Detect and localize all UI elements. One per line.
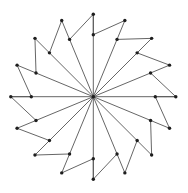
- zag-edge: [137, 141, 152, 156]
- spoke-edge: [93, 53, 137, 97]
- outer-node: [33, 37, 36, 40]
- inner-node: [34, 71, 37, 74]
- zig-edge: [151, 120, 152, 155]
- outer-node: [60, 171, 63, 174]
- inner-node: [149, 71, 152, 74]
- outer-node: [92, 178, 95, 181]
- inner-node: [48, 139, 51, 142]
- spoke-edge: [49, 53, 93, 97]
- outer-node: [92, 13, 95, 16]
- zig-edge: [35, 38, 36, 73]
- zig-edge: [70, 14, 94, 39]
- spoke-edge: [93, 97, 137, 141]
- zag-edge: [151, 65, 170, 73]
- outer-node: [123, 19, 126, 22]
- outer-node: [150, 153, 153, 156]
- zig-edge: [151, 73, 176, 97]
- zag-edge: [17, 120, 36, 128]
- outer-node: [168, 63, 171, 66]
- inner-node: [48, 51, 51, 54]
- inner-node: [68, 38, 71, 41]
- outer-node: [60, 19, 63, 22]
- outer-node: [123, 171, 126, 174]
- zig-edge: [125, 141, 137, 173]
- outer-node: [33, 153, 36, 156]
- outer-node: [174, 95, 177, 98]
- zig-edge: [49, 20, 61, 52]
- zig-edge: [117, 38, 152, 39]
- inner-node: [30, 95, 33, 98]
- zag-edge: [35, 38, 50, 53]
- inner-node: [135, 51, 138, 54]
- outer-node: [15, 127, 18, 130]
- center-node: [92, 95, 95, 98]
- inner-node: [92, 157, 95, 160]
- zig-edge: [93, 154, 117, 179]
- outer-node: [9, 95, 12, 98]
- outer-node: [168, 127, 171, 130]
- spoke-edge: [49, 97, 93, 141]
- zig-edge: [137, 53, 169, 65]
- inner-node: [34, 119, 37, 122]
- zag-edge: [62, 20, 70, 39]
- zag-edge: [35, 141, 50, 156]
- outer-node: [150, 37, 153, 40]
- inner-node: [154, 95, 157, 98]
- inner-node: [92, 33, 95, 36]
- zigzag-star-diagram: [0, 0, 188, 193]
- zig-edge: [17, 128, 49, 140]
- zig-edge: [35, 154, 70, 155]
- inner-node: [115, 152, 118, 155]
- inner-node: [68, 152, 71, 155]
- zag-edge: [137, 38, 152, 53]
- outer-node: [15, 63, 18, 66]
- inner-node: [149, 119, 152, 122]
- inner-node: [115, 38, 118, 41]
- inner-node: [135, 139, 138, 142]
- zag-edge: [117, 154, 125, 173]
- zig-edge: [11, 97, 36, 121]
